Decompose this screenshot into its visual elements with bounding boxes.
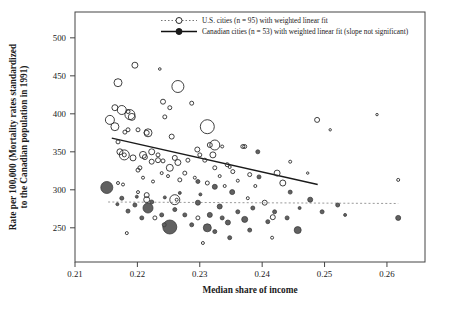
canadian-city-point — [236, 210, 240, 214]
us-weighted-fit-line — [112, 138, 318, 184]
us-city-point — [156, 153, 160, 157]
us-city-point — [195, 147, 200, 152]
legend-us-open-circle-marker — [176, 18, 182, 24]
y-tick-label: 250 — [53, 223, 67, 233]
us-city-point — [122, 153, 126, 157]
canadian-city-point — [308, 197, 313, 202]
us-city-point — [200, 120, 214, 134]
y-axis-ticks: 250300350400450500 — [53, 33, 75, 233]
legend-canada-label: Canadian cities (n = 53) with weighted l… — [202, 27, 409, 36]
us-city-point — [117, 182, 120, 185]
us-city-point — [126, 128, 130, 132]
canadian-city-point — [266, 220, 270, 224]
us-city-point — [144, 130, 149, 135]
us-city-point — [228, 166, 231, 169]
y-axis-title-line1: Rate per 100,000 (Mortality rates standa… — [8, 43, 19, 230]
y-axis-title-line2: to the Canadian population in 1991) — [19, 66, 30, 209]
us-city-point — [193, 176, 196, 179]
us-city-point — [236, 179, 239, 182]
us-city-point — [178, 178, 182, 182]
us-city-point — [397, 178, 400, 181]
us-city-point — [132, 62, 138, 68]
canadian-city-point — [257, 175, 261, 179]
canadian-city-point — [203, 224, 211, 232]
us-city-point — [196, 216, 200, 220]
us-city-point — [136, 128, 140, 132]
canadian-city-point — [285, 216, 289, 220]
us-city-point — [218, 175, 221, 178]
canadian-city-point — [199, 193, 202, 196]
us-city-point — [210, 152, 216, 158]
canadian-city-point — [190, 223, 194, 227]
plot-area-border — [75, 12, 425, 262]
canadian-city-point — [160, 213, 164, 217]
x-tick-label: 0.26 — [379, 269, 395, 279]
canadian-city-point — [242, 216, 248, 222]
us-city-point — [149, 149, 155, 155]
x-tick-label: 0.21 — [67, 269, 82, 279]
mortality-income-scatter-figure: 250300350400450500 0.210.220.230.240.250… — [0, 0, 450, 316]
canadian-city-point — [288, 190, 292, 194]
canadian-city-point — [150, 200, 154, 204]
us-city-point — [271, 236, 274, 239]
us-city-point — [167, 175, 170, 178]
us-city-point — [142, 176, 145, 179]
canadian-city-point — [116, 203, 119, 206]
us-city-point — [114, 79, 122, 87]
us-city-point — [161, 159, 165, 163]
us-city-point — [166, 164, 173, 171]
canadian-city-point — [133, 203, 137, 207]
canadian-city-point — [273, 210, 277, 214]
us-city-point — [172, 81, 184, 93]
canadian-city-point — [195, 200, 200, 205]
canadian-city-point — [213, 230, 217, 234]
y-tick-label: 300 — [53, 185, 67, 195]
us-city-point — [169, 134, 174, 139]
us-city-point — [130, 155, 136, 161]
canadian-city-point — [294, 227, 301, 234]
us-city-point — [183, 171, 187, 175]
x-tick-label: 0.22 — [130, 269, 145, 279]
canadian-city-point — [140, 216, 144, 220]
us-city-point — [175, 198, 178, 201]
us-city-point — [116, 140, 120, 144]
us-city-point — [122, 183, 125, 186]
us-city-point — [149, 159, 154, 164]
us-city-point — [190, 101, 194, 105]
us-city-point — [142, 155, 147, 160]
canadian-city-point — [225, 220, 230, 225]
us-city-point — [112, 105, 118, 111]
us-city-point — [270, 215, 275, 220]
canadian-city-point — [173, 208, 177, 212]
canadian-city-point — [143, 203, 153, 213]
canadian-city-point — [320, 210, 324, 214]
us-city-point — [246, 197, 249, 200]
legend-us-label: U.S. cities (n = 95) with weighted linea… — [202, 16, 328, 25]
us-city-point — [156, 158, 161, 163]
weighted-fit-lines — [108, 138, 398, 203]
us-city-point — [254, 185, 257, 188]
us-city-point — [376, 113, 378, 115]
canadian-city-point — [230, 190, 235, 195]
us-city-point — [231, 170, 235, 174]
us-city-point — [168, 106, 172, 110]
canadian-city-point — [228, 236, 232, 240]
us-city-point — [172, 155, 177, 160]
x-tick-label: 0.23 — [192, 269, 208, 279]
canadian-city-point — [212, 184, 217, 189]
canadian-city-point — [196, 180, 200, 184]
us-city-point — [159, 68, 162, 71]
us-city-point — [163, 115, 167, 119]
us-city-point — [137, 191, 140, 194]
canadian-city-point — [126, 209, 130, 213]
us-city-point — [201, 242, 204, 245]
us-city-point — [198, 153, 202, 157]
us-city-point — [152, 180, 155, 183]
y-tick-label: 400 — [53, 109, 67, 119]
canadian-city-point — [183, 213, 187, 217]
canadian-city-point — [248, 228, 252, 232]
canadian-city-point — [256, 150, 260, 154]
canadian-city-point — [120, 196, 124, 200]
canadian-city-point — [162, 223, 166, 227]
us-city-point — [221, 145, 224, 148]
